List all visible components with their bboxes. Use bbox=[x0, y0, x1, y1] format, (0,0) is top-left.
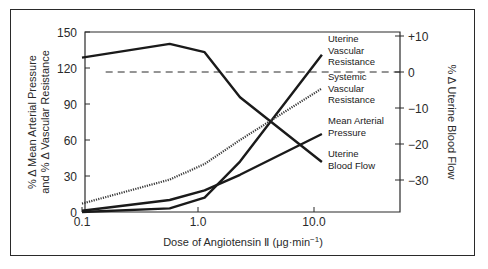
series-labels: UterineVascularResistanceSystemicVascula… bbox=[328, 33, 384, 171]
y-left-tick-label: 150 bbox=[57, 26, 77, 40]
y-right-tick-label: 0 bbox=[408, 66, 415, 80]
series-lines bbox=[82, 44, 322, 212]
y-right-tick-label: −10 bbox=[408, 102, 429, 116]
y-left-tick-label: 120 bbox=[57, 62, 77, 76]
chart: 0306090120150+100−10−20−300.11.010.0 Ute… bbox=[0, 0, 488, 269]
y-left-tick-label: 30 bbox=[64, 170, 78, 184]
axis-titles: Dose of Angiotensin Ⅱ (μg·min−1)% Δ Mean… bbox=[26, 50, 458, 248]
x-axis-title: Dose of Angiotensin Ⅱ (μg·min−1) bbox=[163, 235, 323, 248]
y-right-tick-label: +10 bbox=[408, 30, 429, 44]
y-left-axis-title: % Δ Mean Arterial Pressureand % Δ Vascul… bbox=[26, 50, 51, 194]
y-right-tick-label: −20 bbox=[408, 138, 429, 152]
x-tick-label: 10.0 bbox=[302, 215, 326, 229]
x-tick-label: 0.1 bbox=[74, 215, 91, 229]
series-label-systemic-vascular-resistance: SystemicVascularResistance bbox=[328, 71, 375, 105]
series-label-uterine-vascular-resistance: UterineVascularResistance bbox=[328, 33, 375, 67]
y-right-axis-title: % Δ Uterine Blood Flow bbox=[446, 65, 458, 180]
x-tick-label: 1.0 bbox=[190, 215, 207, 229]
y-right-tick-label: −30 bbox=[408, 174, 429, 188]
series-label-mean-arterial-pressure: Mean ArterialPressure bbox=[328, 115, 384, 138]
y-left-tick-label: 60 bbox=[64, 134, 78, 148]
series-line-systemic-vascular-resistance bbox=[82, 88, 322, 203]
series-label-uterine-blood-flow: UterineBlood Flow bbox=[328, 148, 375, 171]
y-left-tick-label: 90 bbox=[64, 98, 78, 112]
